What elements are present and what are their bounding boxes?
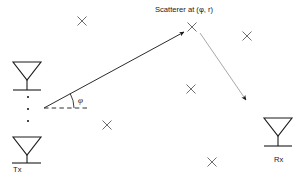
scatterer-marker-icon bbox=[103, 121, 112, 130]
scatterer-field bbox=[78, 17, 252, 167]
scatterer-marker-icon bbox=[243, 32, 252, 41]
scatterer-marker-icon bbox=[78, 17, 87, 26]
scatterer-marker-icon bbox=[208, 158, 217, 167]
antenna-cone-icon bbox=[264, 118, 292, 136]
rx-antenna bbox=[264, 118, 292, 146]
angle-arc bbox=[70, 94, 74, 108]
tx-array-ellipsis bbox=[27, 96, 29, 122]
tx-antenna-element-bottom bbox=[12, 137, 41, 163]
scatterer-marker-icon bbox=[187, 85, 196, 94]
ellipsis-dot bbox=[27, 108, 29, 110]
angle-phi-label: φ bbox=[78, 96, 83, 105]
scattering-diagram: Scatterer at (φ, r) Tx Rx φ bbox=[0, 0, 308, 180]
antenna-cone-icon bbox=[13, 137, 41, 155]
ellipsis-dot bbox=[27, 96, 29, 98]
tx-antenna-array bbox=[12, 62, 41, 163]
ray-scatterer-to-rx bbox=[200, 33, 246, 100]
rx-label: Rx bbox=[274, 156, 283, 164]
diagram-canvas bbox=[0, 0, 308, 180]
active-scatterer-marker-icon bbox=[188, 23, 197, 32]
scatterer-label: Scatterer at (φ, r) bbox=[155, 6, 213, 14]
tx-label: Tx bbox=[13, 166, 21, 174]
tx-antenna-element-top bbox=[13, 62, 41, 90]
antenna-cone-icon bbox=[13, 62, 41, 80]
ellipsis-dot bbox=[27, 120, 29, 122]
ray-tx-to-scatterer bbox=[44, 32, 184, 108]
